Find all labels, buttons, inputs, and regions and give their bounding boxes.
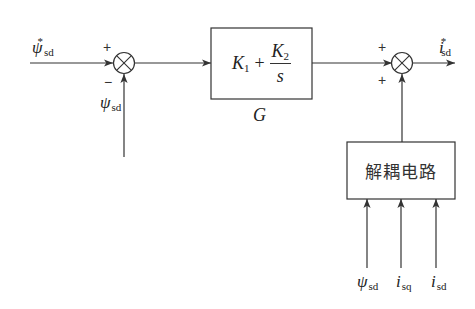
summer1-plus-sign: + bbox=[103, 40, 111, 54]
output-label: i*sd bbox=[439, 36, 451, 58]
fraction-numerator: K2 bbox=[270, 41, 292, 64]
decoupling-input-label-1: ψsd bbox=[357, 273, 378, 292]
k2-over-s-fraction: K2 s bbox=[270, 41, 292, 87]
summer2-bottom-plus-sign: + bbox=[378, 73, 386, 87]
controller-formula: K1 + K2 s bbox=[211, 28, 312, 99]
output-subscript: sd bbox=[441, 46, 451, 58]
feedback-label: ψsd bbox=[100, 94, 121, 113]
reference-superscript: * bbox=[38, 35, 44, 47]
controller-block-label: G bbox=[253, 106, 266, 124]
plus-operator: + bbox=[254, 53, 264, 74]
feedback-subscript: sd bbox=[112, 101, 122, 113]
summer2-top-plus-sign: + bbox=[378, 40, 386, 54]
summer1-minus-sign: − bbox=[104, 75, 112, 89]
reference-input-label: ψ*sd bbox=[32, 36, 54, 58]
k1-term: K1 bbox=[232, 53, 250, 74]
decoupling-block-label: 解耦电路 bbox=[347, 142, 455, 199]
decoupling-input-label-3: isd bbox=[431, 273, 447, 292]
reference-subscript: sd bbox=[44, 46, 54, 58]
summing-junction-1 bbox=[114, 53, 135, 74]
fraction-denominator: s bbox=[277, 64, 284, 87]
decoupling-input-label-2: isq bbox=[396, 273, 412, 292]
feedback-symbol: ψ bbox=[100, 93, 111, 112]
summing-junction-2 bbox=[392, 53, 413, 74]
